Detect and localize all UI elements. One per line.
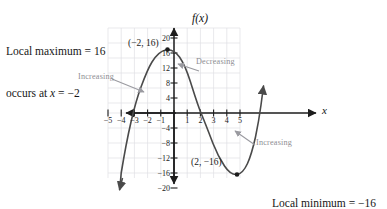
local-minimum-point-label: (2, −16) — [191, 157, 222, 167]
local-maximum-callout-line1: Local maximum = 16 — [6, 44, 105, 58]
y-tick-label: −12 — [157, 154, 170, 163]
y-tick-label: −16 — [157, 169, 170, 178]
x-tick-label: −4 — [117, 116, 126, 125]
x-tick-label: −3 — [130, 116, 139, 125]
local-minimum-callout: Local minimum = −16 occurs at x = 2 — [272, 168, 376, 209]
x-tick-label: 2 — [198, 116, 202, 125]
y-tick-label: 8 — [166, 79, 170, 88]
y-axis-label: f(x) — [192, 12, 208, 24]
local-minimum-point — [235, 172, 240, 177]
y-tick-label: 20 — [162, 34, 170, 43]
x-tick-label: −2 — [143, 116, 152, 125]
decreasing-annotation: Decreasing — [196, 57, 235, 66]
x-axis-label: x — [322, 104, 327, 116]
x-tick-label: 3 — [212, 116, 216, 125]
x-tick-label: 1 — [185, 116, 189, 125]
graph-figure: −5 −4 −3 −2 −1 1 2 3 4 5 20 16 12 8 4 −4… — [0, 0, 387, 209]
y-tick-label: 12 — [162, 64, 170, 73]
y-tick-label: 4 — [166, 94, 170, 103]
increasing-left-leader — [112, 79, 144, 92]
x-tick-label: 4 — [225, 116, 229, 125]
increasing-right-annotation: Increasing — [256, 138, 292, 147]
local-maximum-callout-line2: occurs at x = −2 — [6, 86, 105, 100]
local-maximum-point-label: (−2, 16) — [128, 38, 159, 48]
y-tick-label: −4 — [161, 124, 170, 133]
x-tick-label: 5 — [238, 116, 242, 125]
y-tick-label: 16 — [162, 49, 170, 58]
local-minimum-callout-line1: Local minimum = −16 — [272, 196, 376, 209]
y-tick-label: −20 — [157, 184, 170, 193]
y-tick-label: −8 — [161, 139, 170, 148]
increasing-left-annotation: Increasing — [78, 72, 114, 81]
x-tick-labels: −5 −4 −3 −2 −1 1 2 3 4 5 — [104, 116, 242, 125]
